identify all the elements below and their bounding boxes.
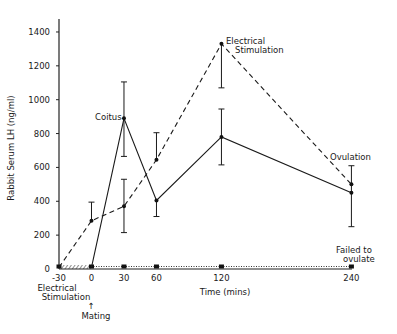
series-line-dashed	[59, 44, 351, 267]
y-tick-label: 400	[34, 196, 50, 206]
hatched-band	[59, 265, 91, 269]
data-point	[349, 182, 353, 186]
x-tick-label: 30	[119, 273, 130, 283]
data-point	[89, 219, 93, 223]
failed-to-ovulate-series	[57, 265, 354, 270]
y-tick-label: 800	[34, 129, 50, 139]
y-tick-label: 0	[45, 264, 50, 274]
x-tick-label: -30	[52, 273, 66, 283]
baseline-marker	[219, 265, 224, 269]
series-layer	[59, 42, 354, 267]
y-tick-label: 200	[34, 230, 50, 240]
y-tick-label: 1400	[28, 27, 50, 37]
baseline-marker	[154, 265, 159, 269]
axes	[59, 19, 352, 269]
lh-time-chart: 0200400600800100012001400 -3003060120240…	[0, 0, 397, 334]
annotation-coitus: Coitus	[95, 112, 122, 122]
y-tick-label: 600	[34, 162, 50, 172]
data-point	[219, 135, 223, 139]
annotation-ovulation: Ovulation	[330, 152, 371, 162]
annotation-es-bottom-2: Stimulation	[42, 292, 91, 302]
data-point	[122, 116, 126, 120]
data-point	[154, 158, 158, 162]
x-tick-label: 60	[151, 273, 162, 283]
y-axis-label: Rabbit Serum LH (ng/ml)	[6, 95, 16, 200]
data-point	[122, 204, 126, 208]
x-axis-label: Time (mins)	[199, 287, 251, 297]
x-ticks: -3003060120240	[52, 273, 359, 283]
annotation-failed-2: ovulate	[343, 254, 375, 264]
data-point	[154, 198, 158, 202]
mating-arrow-icon: ↑	[87, 301, 94, 311]
y-ticks: 0200400600800100012001400	[28, 27, 59, 274]
x-tick-label: 0	[89, 273, 94, 283]
y-tick-label: 1200	[28, 61, 50, 71]
x-tick-label: 120	[213, 273, 229, 283]
baseline-marker	[121, 265, 126, 269]
data-point	[219, 42, 223, 46]
data-point	[349, 191, 353, 195]
x-tick-label: 240	[343, 273, 359, 283]
y-tick-label: 1000	[28, 95, 50, 105]
baseline-marker	[349, 265, 354, 269]
annotation-mating: Mating	[81, 311, 110, 321]
annotation-es-top-2: Stimulation	[235, 45, 284, 55]
